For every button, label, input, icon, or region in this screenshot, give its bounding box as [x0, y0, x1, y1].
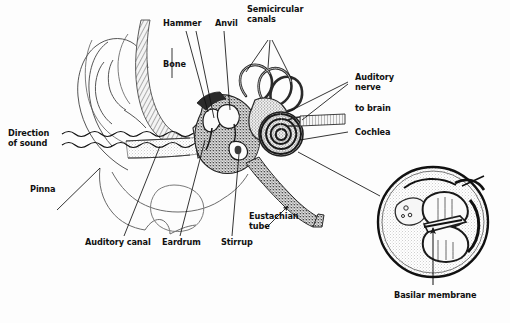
ear-anatomy-figure: Direction of sound Pinna Auditory canal … — [0, 0, 510, 323]
label-basilar-membrane: Basilar membrane — [394, 291, 477, 301]
label-auditory-nerve: Auditory nerve — [355, 73, 394, 92]
ear-diagram-artwork — [0, 0, 510, 323]
label-stirrup: Stirrup — [221, 238, 253, 248]
leader-inset-connector — [298, 152, 380, 196]
label-auditory-canal: Auditory canal — [85, 238, 151, 248]
leader-canals-c — [272, 40, 292, 80]
label-hammer: Hammer — [163, 19, 201, 29]
label-eardrum: Eardrum — [162, 238, 201, 248]
bone-region — [136, 20, 196, 149]
label-bone: Bone — [163, 60, 186, 70]
cochlea-shape — [259, 112, 303, 156]
leader-pinna — [57, 168, 100, 210]
label-cochlea: Cochlea — [355, 128, 391, 138]
label-pinna: Pinna — [30, 185, 56, 195]
head-outline — [85, 34, 138, 148]
label-anvil: Anvil — [215, 19, 238, 29]
label-semicircular-canals: Semicircular canals — [247, 5, 303, 24]
label-to-brain: to brain — [355, 104, 391, 114]
leader-canals-b — [268, 40, 270, 68]
leader-cochlea — [300, 132, 348, 140]
label-eustachian-tube: Eustachian tube — [249, 212, 299, 231]
jaw-contour — [100, 168, 249, 234]
label-direction-of-sound: Direction of sound — [8, 129, 49, 148]
leader-auditory-canal — [124, 146, 160, 236]
